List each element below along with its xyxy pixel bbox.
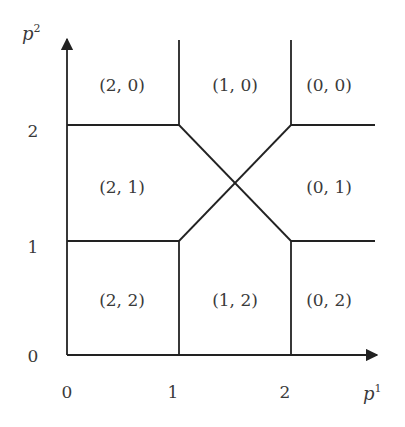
region-label-1-2: (1, 2) <box>212 290 258 310</box>
region-label-0-2: (0, 2) <box>306 290 352 310</box>
region-label-2-0: (2, 0) <box>99 75 145 95</box>
region-partition-diagram: (2, 0) (1, 0) (0, 0) (2, 1) (0, 1) (2, 2… <box>0 0 405 427</box>
region-label-0-0: (0, 0) <box>306 75 352 95</box>
region-label-0-1: (0, 1) <box>306 177 352 197</box>
y-tick-1: 1 <box>28 237 39 257</box>
x-tick-0: 0 <box>62 382 73 402</box>
region-label-2-1: (2, 1) <box>99 177 145 197</box>
region-label-2-2: (2, 2) <box>99 290 145 310</box>
y-tick-0: 0 <box>28 346 39 366</box>
x-tick-2: 2 <box>280 382 291 402</box>
y-axis-title: p2 <box>22 22 41 44</box>
x-tick-1: 1 <box>168 382 179 402</box>
x-axis-title: p1 <box>363 382 382 404</box>
y-tick-2: 2 <box>28 121 39 141</box>
region-label-1-0: (1, 0) <box>212 75 258 95</box>
